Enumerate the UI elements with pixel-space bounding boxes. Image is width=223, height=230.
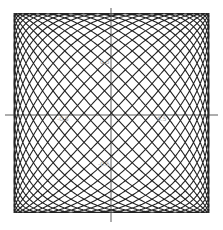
lissajous-line — [14, 14, 209, 213]
y-tick-neg: -0.5 — [98, 160, 110, 167]
x-tick-pos: 0.5 — [157, 115, 167, 122]
x-tick-neg: -0.5 — [57, 115, 69, 122]
chart-container: -0.5 0.5 0.5 -0.5 — [0, 0, 223, 230]
lissajous-plot: -0.5 0.5 0.5 -0.5 — [0, 0, 223, 230]
y-tick-pos: 0.5 — [100, 58, 110, 65]
curve — [14, 14, 209, 213]
